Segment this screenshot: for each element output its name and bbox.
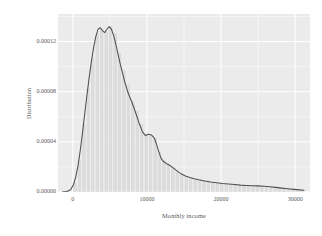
y-tick-label: 0.00000 bbox=[8, 188, 56, 194]
x-tick-label: 20000 bbox=[198, 196, 244, 202]
y-tick-label: 0.00012 bbox=[8, 38, 56, 44]
density-plot-figure: Distribution Monthly income 0.00000 0.00… bbox=[0, 0, 322, 236]
y-tick-label: 0.00008 bbox=[8, 88, 56, 94]
plot-panel bbox=[58, 14, 310, 192]
x-tick-label: 10000 bbox=[124, 196, 170, 202]
plot-canvas bbox=[58, 14, 310, 192]
x-tick-label: 30000 bbox=[272, 196, 318, 202]
x-axis-title: Monthly income bbox=[58, 212, 310, 219]
y-tick-label: 0.00004 bbox=[8, 138, 56, 144]
x-tick-label: 0 bbox=[50, 196, 96, 202]
y-axis-title: Distribution bbox=[25, 44, 32, 164]
